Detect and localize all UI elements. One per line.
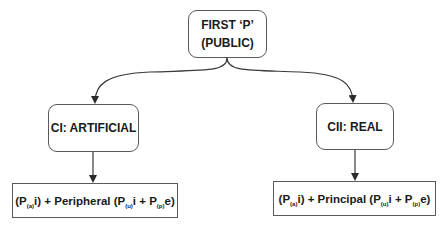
root-node-public: FIRST ‘P’ (PUBLIC) xyxy=(188,10,267,58)
node-ci-artificial: CI: ARTIFICIAL xyxy=(48,104,139,152)
formula-real: (P(a)i) + Principal (P(u)i + P(p)e) xyxy=(279,190,431,208)
node-cii-real-label: CII: REAL xyxy=(327,118,382,136)
formula-artificial: (P(a)i) + Peripheral (P(u)i + P(p)e) xyxy=(15,192,174,210)
root-node-line2: (PUBLIC) xyxy=(201,34,254,52)
arrow-root-to-artificial xyxy=(95,58,227,102)
formula-box-artificial: (P(a)i) + Peripheral (P(u)i + P(p)e) xyxy=(12,183,178,218)
node-cii-real: CII: REAL xyxy=(316,103,394,150)
arrow-root-to-real xyxy=(227,58,353,101)
root-node-line1: FIRST ‘P’ xyxy=(201,16,254,34)
formula-box-real: (P(a)i) + Principal (P(u)i + P(p)e) xyxy=(273,181,436,216)
node-ci-artificial-label: CI: ARTIFICIAL xyxy=(51,119,137,137)
classification-diagram: FIRST ‘P’ (PUBLIC) CI: ARTIFICIAL CII: R… xyxy=(0,0,446,230)
